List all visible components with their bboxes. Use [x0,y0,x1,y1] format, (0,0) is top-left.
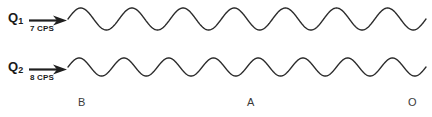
frequency-label-q2: 8 CPS [30,74,54,82]
source-label-q1-subscript: 1 [18,16,23,26]
wave-diagram-figure: Q1 7 CPS Q2 8 CPS B A O [0,0,432,117]
source-label-q2-main: Q [8,59,18,74]
frequency-label-q1: 7 CPS [30,25,54,33]
waveform-path-q2 [68,58,426,76]
position-marker-b: B [78,97,85,108]
source-label-q1-main: Q [8,10,18,25]
waveform-path-q1 [68,8,426,30]
source-label-q2-subscript: 2 [18,65,23,75]
source-label-q2: Q2 [8,60,23,75]
position-marker-o: O [408,97,417,108]
position-marker-a: A [247,97,254,108]
source-label-q1: Q1 [8,11,23,26]
waveform-canvas [0,0,432,117]
